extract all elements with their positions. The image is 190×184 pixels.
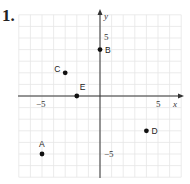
point-label-d: D (151, 126, 157, 136)
y-tick-neg5: −5 (104, 149, 114, 159)
point-label-c: C (54, 64, 60, 74)
y-tick-5: 5 (104, 32, 109, 42)
y-axis-arrow-icon (98, 9, 103, 15)
point-d (144, 128, 149, 133)
point-b (98, 47, 103, 52)
y-axis-label: y (103, 11, 108, 21)
point-c (63, 70, 68, 75)
point-e (74, 94, 79, 99)
point-a (40, 152, 45, 157)
x-tick-neg5: −5 (36, 99, 46, 109)
point-label-b: B (105, 45, 111, 55)
coordinate-plane: x y −5 5 5 −5 ABCDE (0, 0, 190, 184)
x-tick-5: 5 (156, 99, 161, 109)
x-axis-label: x (172, 99, 177, 109)
point-label-a: A (39, 139, 45, 149)
point-label-e: E (80, 82, 86, 92)
